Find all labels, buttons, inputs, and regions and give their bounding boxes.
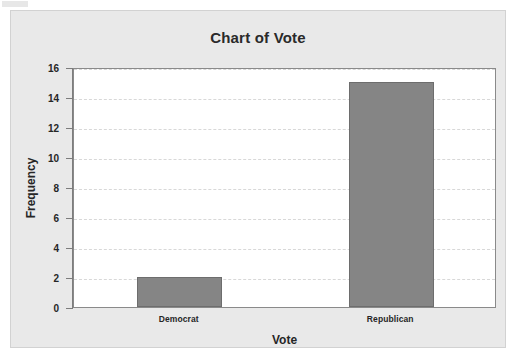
y-axis-tick [66,98,72,99]
scan-artifact [2,1,28,7]
chart-figure: Chart of Vote Frequency 0246810121416 De… [0,0,517,362]
y-axis-tick [66,308,72,309]
gridline [74,69,495,70]
y-axis-tick-label: 0 [11,303,59,314]
y-axis-tick-label: 6 [11,213,59,224]
x-axis-title: Vote [73,333,496,347]
bar [137,277,222,307]
y-axis-tick-label: 14 [11,93,59,104]
y-axis-tick [66,158,72,159]
y-axis-tick-label: 10 [11,153,59,164]
y-axis-tick [66,188,72,189]
y-axis-tick [66,278,72,279]
y-axis-tick-label: 12 [11,123,59,134]
bar [349,82,434,307]
x-axis-tick-label: Republican [367,314,414,324]
y-axis-tick-label: 8 [11,183,59,194]
plot-area [73,68,496,308]
y-axis-tick-label: 4 [11,243,59,254]
chart-title: Chart of Vote [11,29,505,46]
y-axis-tick-label: 2 [11,273,59,284]
y-axis-tick [66,248,72,249]
figure-panel: Chart of Vote Frequency 0246810121416 De… [10,10,506,348]
y-axis-tick [66,218,72,219]
y-axis-tick [66,128,72,129]
x-axis-tick-label: Democrat [159,314,199,324]
y-axis-tick-label: 16 [11,63,59,74]
y-axis-tick [66,68,72,69]
